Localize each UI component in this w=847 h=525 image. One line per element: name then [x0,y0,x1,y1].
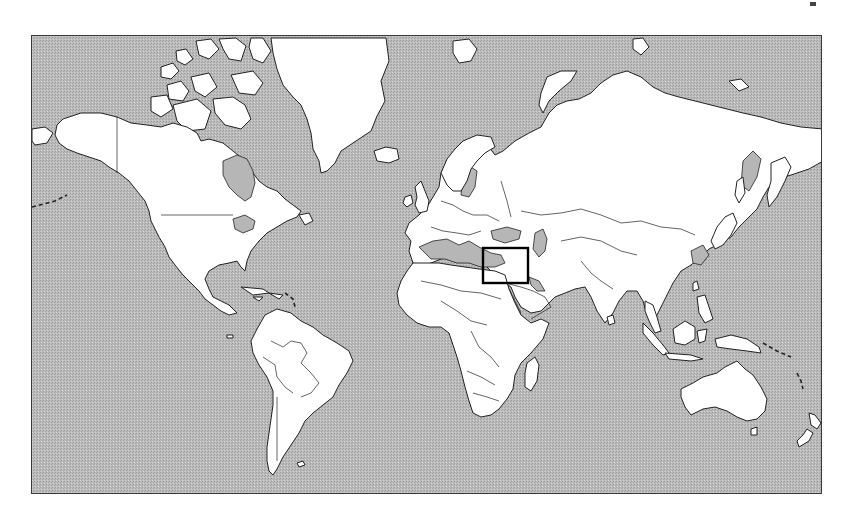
sulawesi [697,329,707,343]
corner-mark [810,2,816,6]
galapagos [227,335,233,338]
iceland [374,147,399,163]
sri-lanka [607,315,615,325]
tasmania [751,427,757,435]
world-map [31,35,822,494]
map-canvas [32,36,822,494]
